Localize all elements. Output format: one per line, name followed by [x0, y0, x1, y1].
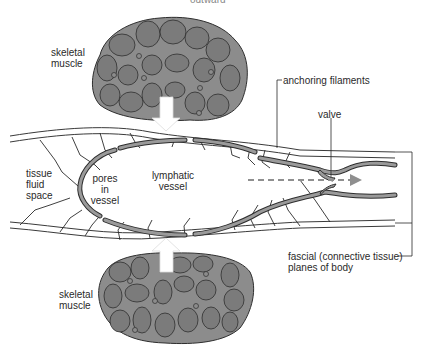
label-skeletal-muscle-bottom: skeletal muscle — [59, 289, 93, 311]
label-valve: valve — [318, 109, 341, 120]
label-lymphatic-vessel: lymphatic vessel — [148, 170, 198, 192]
flow-arrow — [248, 174, 362, 186]
fascial-plane-bottom — [10, 220, 395, 239]
skeletal-muscle-bottom — [99, 238, 254, 344]
label-anchoring-filaments: anchoring filaments — [283, 75, 370, 86]
top-cut-text: outward — [190, 0, 226, 5]
label-skeletal-muscle-top: skeletal muscle — [51, 47, 85, 69]
label-fascial-planes: fascial (connective tissue) planes of bo… — [288, 251, 403, 273]
skeletal-muscle-top — [92, 17, 247, 131]
label-pores-in-vessel: pores in vessel — [90, 173, 120, 206]
label-tissue-fluid-space: tissue fluid space — [26, 168, 53, 201]
